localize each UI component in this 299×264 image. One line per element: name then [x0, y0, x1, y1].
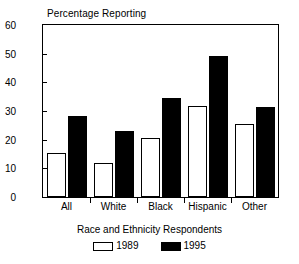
x-tick-mark: [90, 198, 91, 203]
bar-hispanic-1989: [188, 106, 207, 197]
y-tick-label: 50: [0, 48, 16, 59]
bar-black-1989: [141, 138, 160, 197]
x-tick-label: Black: [148, 201, 172, 212]
legend-item-1995: 1995: [161, 241, 206, 251]
chart-title: Percentage Reporting: [47, 8, 146, 19]
chart-legend: 19891995: [0, 241, 299, 251]
bar-chart-figure: Percentage Reporting 0102030405060 AllWh…: [0, 0, 299, 264]
y-tick-label: 10: [0, 163, 16, 174]
bar-black-1995: [162, 98, 181, 197]
x-tick-label: Hispanic: [188, 201, 226, 212]
y-tick-label: 40: [0, 77, 16, 88]
legend-swatch-1995: [161, 242, 181, 251]
bar-all-1989: [47, 153, 66, 197]
bar-white-1989: [94, 163, 113, 197]
x-tick-mark: [184, 198, 185, 203]
bar-hispanic-1995: [209, 56, 228, 197]
x-tick-mark: [137, 198, 138, 203]
bar-other-1989: [235, 124, 254, 197]
legend-item-1989: 1989: [93, 241, 138, 251]
bar-other-1995: [256, 107, 275, 197]
bar-all-1995: [68, 116, 87, 197]
legend-label-1989: 1989: [116, 241, 138, 251]
legend-swatch-1989: [93, 242, 113, 251]
y-tick-label: 60: [0, 20, 16, 31]
x-tick-label: All: [61, 201, 72, 212]
x-axis-title: Race and Ethnicity Respondents: [0, 224, 299, 235]
bar-white-1995: [115, 131, 134, 197]
x-tick-label: Other: [242, 201, 267, 212]
x-tick-label: White: [101, 201, 127, 212]
bar-group: [137, 25, 184, 197]
y-tick-label: 20: [0, 134, 16, 145]
y-tick-label: 0: [0, 192, 16, 203]
bar-group: [43, 25, 90, 197]
bar-group: [90, 25, 137, 197]
bar-group: [184, 25, 231, 197]
bars-layer: [43, 25, 278, 197]
x-tick-mark: [231, 198, 232, 203]
y-tick-label: 30: [0, 106, 16, 117]
bar-group: [231, 25, 278, 197]
legend-label-1995: 1995: [184, 241, 206, 251]
